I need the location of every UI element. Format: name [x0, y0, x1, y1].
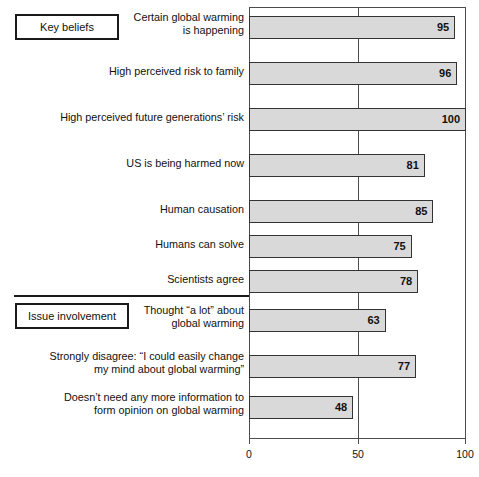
bar-row-label: Certain global warmingis happening — [14, 11, 244, 37]
bar-row-label-line1: High perceived future generations’ risk — [14, 111, 244, 124]
bar-row-label-line1: Humans can solve — [14, 238, 244, 251]
bar-value-label: 75 — [249, 235, 412, 258]
bar-value-label: 100 — [249, 108, 466, 131]
x-tick-0 — [249, 439, 250, 444]
bar-row-label: Thought “a lot” aboutglobal warming — [14, 304, 244, 330]
bar-row-label: Human causation — [14, 203, 244, 216]
section-divider — [14, 295, 250, 297]
bar-value-label: 48 — [249, 396, 353, 419]
x-tick-label-0: 0 — [229, 448, 269, 460]
bar-value-label: 78 — [249, 270, 418, 293]
bar-row-label: Scientists agree — [14, 273, 244, 286]
x-tick-label-50: 50 — [338, 448, 378, 460]
bar-value-label: 63 — [249, 309, 386, 332]
bar-row-label-line1: Thought “a lot” about — [14, 304, 244, 317]
x-tick-label-100: 100 — [445, 448, 479, 460]
bar-row-label: Humans can solve — [14, 238, 244, 251]
x-tick-50 — [358, 439, 359, 444]
bar-row-label-line2: global warming — [14, 317, 244, 330]
bar-row-label: Doesn’t need any more information toform… — [14, 391, 244, 417]
bar-row-label-line1: US is being harmed now — [14, 157, 244, 170]
bar-value-label: 96 — [249, 62, 457, 85]
bar-row-label-line1: Certain global warming — [14, 11, 244, 24]
bar-value-label: 85 — [249, 200, 433, 223]
chart-canvas: Key beliefs Issue involvement 0 50 100 C… — [0, 0, 479, 477]
bar-row-label-line1: Scientists agree — [14, 273, 244, 286]
bar-value-label: 95 — [249, 16, 455, 39]
bar-row-label-line2: form opinion on global warming — [14, 404, 244, 417]
bar-row-label-line1: Human causation — [14, 203, 244, 216]
bar-value-label: 81 — [249, 154, 425, 177]
bar-row-label: Strongly disagree: “I could easily chang… — [14, 350, 244, 376]
bar-row-label-line1: Doesn’t need any more information to — [14, 391, 244, 404]
bar-row-label: High perceived future generations’ risk — [14, 111, 244, 124]
x-tick-100 — [465, 439, 466, 444]
bar-row-label-line1: High perceived risk to family — [14, 65, 244, 78]
bar-row-label: High perceived risk to family — [14, 65, 244, 78]
bar-row-label: US is being harmed now — [14, 157, 244, 170]
bar-row-label-line2: is happening — [14, 24, 244, 37]
bar-row-label-line1: Strongly disagree: “I could easily chang… — [14, 350, 244, 363]
bar-row-label-line2: my mind about global warming” — [14, 363, 244, 376]
bar-value-label: 77 — [249, 355, 416, 378]
